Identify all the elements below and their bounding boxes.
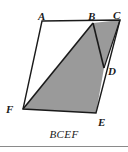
vertex-label-c: C: [113, 10, 120, 21]
vertex-label-f: F: [6, 104, 13, 115]
figure-caption: BCEF: [0, 128, 128, 140]
vertex-label-a: A: [38, 11, 45, 22]
vertex-label-b: B: [88, 11, 95, 22]
bottom-divider: [0, 146, 128, 147]
geometry-figure: A B C D E F BCEF: [0, 0, 128, 152]
vertex-label-e: E: [98, 117, 105, 128]
vertex-label-d: D: [108, 66, 116, 77]
